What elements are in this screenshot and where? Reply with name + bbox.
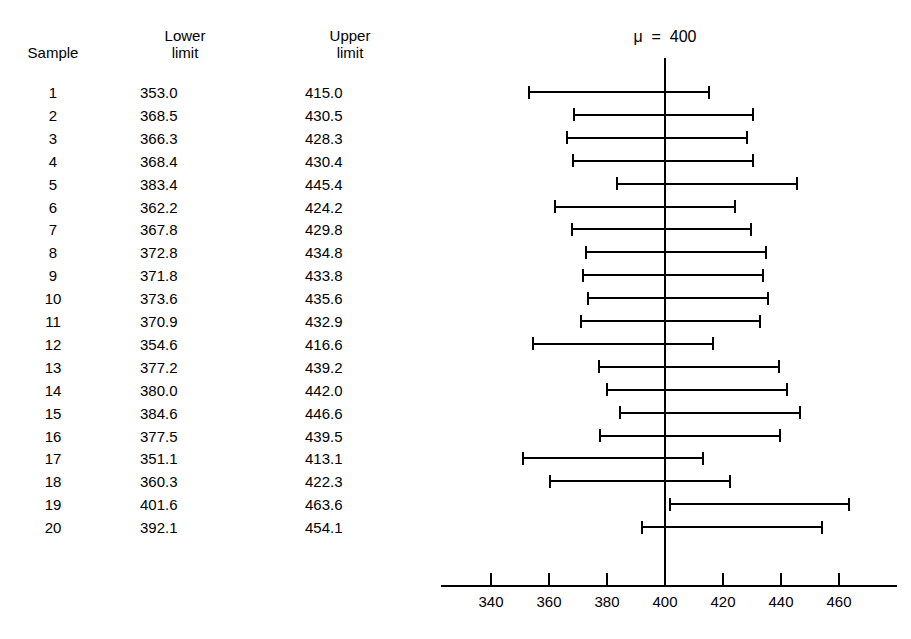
interval-lower-cap: [580, 315, 582, 328]
x-axis-tick-label: 460: [815, 593, 863, 610]
x-axis-tick: [606, 573, 608, 585]
interval-lower-cap: [582, 269, 584, 282]
interval-lower-cap: [532, 337, 534, 350]
interval-lower-cap: [587, 292, 589, 305]
confidence-interval-bar: [620, 412, 800, 414]
confidence-interval-bar: [586, 251, 766, 253]
confidence-interval-bar: [600, 435, 780, 437]
interval-lower-cap: [598, 360, 600, 373]
interval-upper-cap: [746, 131, 748, 144]
interval-lower-cap: [616, 177, 618, 190]
confidence-interval-bar: [529, 91, 709, 93]
interval-upper-cap: [752, 108, 754, 121]
confidence-interval-bar: [599, 366, 779, 368]
interval-lower-cap: [669, 498, 671, 511]
interval-upper-cap: [799, 406, 801, 419]
interval-lower-cap: [585, 246, 587, 259]
interval-lower-cap: [599, 429, 601, 442]
x-axis-tick-label: 440: [757, 593, 805, 610]
x-axis-tick-label: 360: [525, 593, 573, 610]
x-axis-tick-label: 380: [583, 593, 631, 610]
confidence-interval-bar: [607, 389, 787, 391]
x-axis-tick: [838, 573, 840, 585]
confidence-interval-bar: [523, 457, 703, 459]
x-axis-tick: [722, 573, 724, 585]
x-axis-tick: [548, 573, 550, 585]
x-axis-line: [441, 585, 897, 587]
interval-upper-cap: [762, 269, 764, 282]
interval-upper-cap: [848, 498, 850, 511]
interval-upper-cap: [765, 246, 767, 259]
confidence-interval-bar: [670, 503, 850, 505]
interval-lower-cap: [528, 86, 530, 99]
interval-upper-cap: [767, 292, 769, 305]
x-axis-tick-label: 420: [699, 593, 747, 610]
x-axis-tick-label: 340: [467, 593, 515, 610]
x-axis-tick-label: 400: [641, 593, 689, 610]
interval-lower-cap: [606, 383, 608, 396]
interval-upper-cap: [729, 475, 731, 488]
interval-plot: μ = 400 340360380400420440460: [0, 0, 911, 639]
interval-upper-cap: [779, 429, 781, 442]
interval-lower-cap: [619, 406, 621, 419]
confidence-interval-figure: Sample Lower limit Upper limit 1353.0415…: [0, 0, 911, 639]
interval-upper-cap: [821, 521, 823, 534]
interval-upper-cap: [750, 223, 752, 236]
confidence-interval-bar: [581, 320, 761, 322]
x-axis-tick: [780, 573, 782, 585]
x-axis-tick: [490, 573, 492, 585]
interval-upper-cap: [796, 177, 798, 190]
confidence-interval-bar: [573, 160, 753, 162]
confidence-interval-bar: [642, 526, 822, 528]
interval-upper-cap: [786, 383, 788, 396]
interval-lower-cap: [549, 475, 551, 488]
interval-upper-cap: [734, 200, 736, 213]
interval-lower-cap: [571, 223, 573, 236]
interval-upper-cap: [752, 154, 754, 167]
mu-annotation: μ = 400: [585, 28, 745, 46]
confidence-interval-bar: [550, 480, 730, 482]
confidence-interval-bar: [583, 274, 763, 276]
interval-upper-cap: [759, 315, 761, 328]
interval-upper-cap: [778, 360, 780, 373]
interval-upper-cap: [708, 86, 710, 99]
confidence-interval-bar: [617, 183, 797, 185]
interval-lower-cap: [641, 521, 643, 534]
confidence-interval-bar: [574, 114, 754, 116]
interval-lower-cap: [566, 131, 568, 144]
confidence-interval-bar: [588, 297, 768, 299]
interval-lower-cap: [573, 108, 575, 121]
interval-lower-cap: [572, 154, 574, 167]
interval-upper-cap: [702, 452, 704, 465]
confidence-interval-bar: [533, 343, 713, 345]
confidence-interval-bar: [567, 137, 747, 139]
interval-lower-cap: [554, 200, 556, 213]
confidence-interval-bar: [572, 228, 752, 230]
confidence-interval-bar: [555, 206, 735, 208]
interval-lower-cap: [522, 452, 524, 465]
interval-upper-cap: [712, 337, 714, 350]
